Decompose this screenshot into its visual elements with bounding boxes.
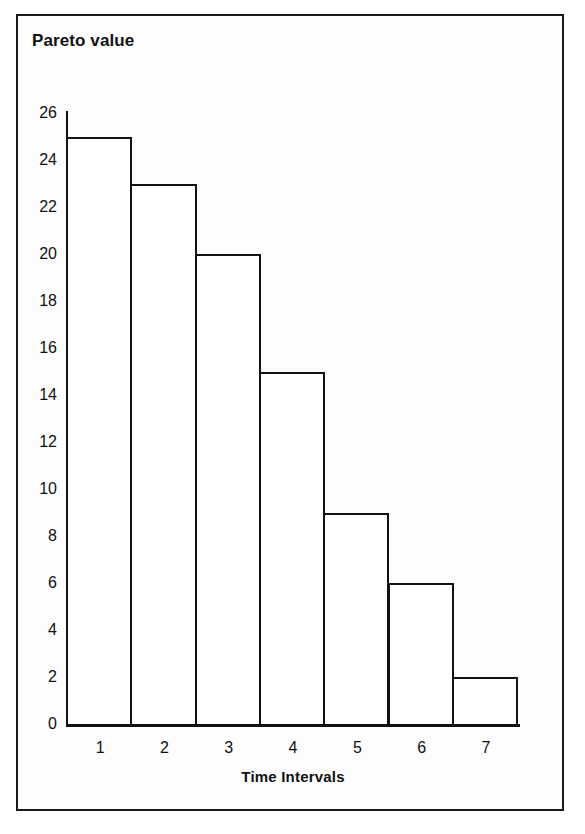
x-axis-title: Time Intervals	[68, 768, 518, 785]
bar	[259, 372, 325, 727]
x-tick-label: 5	[325, 739, 389, 757]
y-tick-label: 16	[26, 339, 66, 357]
y-tick-label: 0	[26, 715, 66, 733]
y-tick-label: 20	[26, 245, 66, 263]
bar	[195, 254, 261, 726]
bar	[66, 137, 132, 727]
y-tick-label: 14	[26, 386, 66, 404]
y-tick-label: 10	[26, 480, 66, 498]
bar	[452, 677, 518, 726]
plot-area: 02468101214161820222426 1234567	[0, 0, 585, 834]
y-tick-label: 18	[26, 292, 66, 310]
x-tick-label: 3	[197, 739, 261, 757]
bar	[388, 583, 454, 726]
figure-container: Pareto value 02468101214161820222426 123…	[0, 0, 585, 834]
y-tick-label: 22	[26, 198, 66, 216]
y-tick-label: 4	[26, 621, 66, 639]
x-tick-label: 6	[390, 739, 454, 757]
bar	[130, 184, 196, 727]
x-tick-label: 7	[454, 739, 518, 757]
y-tick-label: 2	[26, 668, 66, 686]
x-tick-label: 1	[68, 739, 132, 757]
y-tick-label: 12	[26, 433, 66, 451]
bar	[323, 513, 389, 727]
x-tick-label: 2	[132, 739, 196, 757]
y-tick-label: 26	[26, 104, 66, 122]
y-tick-label: 8	[26, 527, 66, 545]
y-tick-label: 24	[26, 151, 66, 169]
x-tick-label: 4	[261, 739, 325, 757]
y-tick-label: 6	[26, 574, 66, 592]
